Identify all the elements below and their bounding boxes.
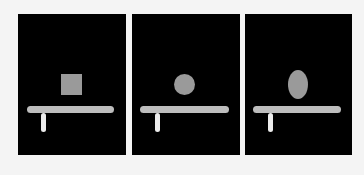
horizontal-bar [27,106,114,113]
panel-circle: circular object resting above bar [132,14,240,155]
panel-oval: oval object resting above bar [245,14,352,155]
panel-label: oval object resting above bar [245,14,246,15]
panel-label: square object resting above bar [18,14,19,15]
oval-object [288,70,308,99]
circle-object [174,74,195,95]
horizontal-bar [253,106,341,113]
panel-square: square object resting above bar [18,14,126,155]
vertical-post [155,113,160,132]
horizontal-bar [140,106,229,113]
vertical-post [268,113,273,132]
square-object [61,74,82,95]
panel-label: circular object resting above bar [132,14,133,15]
vertical-post [41,113,46,132]
